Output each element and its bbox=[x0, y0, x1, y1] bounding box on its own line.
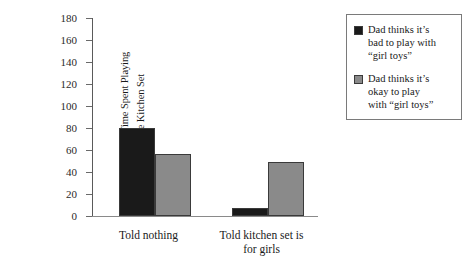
plot-area: 020406080100120140160180 Told nothingTol… bbox=[92, 18, 318, 216]
x-category-label-1-line-1: for girls bbox=[205, 242, 318, 256]
x-axis-baseline bbox=[86, 216, 318, 217]
y-tick-140: 140 bbox=[86, 62, 92, 63]
x-category-label-0-line-0: Told nothing bbox=[92, 228, 205, 242]
y-tick-label-0: 0 bbox=[72, 210, 78, 222]
y-tick-label-60: 60 bbox=[66, 144, 77, 156]
y-tick-label-20: 20 bbox=[66, 188, 77, 200]
y-tick-60: 60 bbox=[86, 150, 92, 151]
y-axis-line bbox=[92, 18, 93, 216]
legend-label-series-1-line-1: Dad thinks it’s bbox=[368, 24, 429, 35]
legend-label-series-1-line-2: bad to play with bbox=[368, 37, 436, 48]
y-tick-40: 40 bbox=[86, 172, 92, 173]
bar-cat0-series1 bbox=[155, 154, 191, 216]
chart-legend: Dad thinks it’s bad to play with “girl t… bbox=[346, 14, 462, 120]
y-tick-80: 80 bbox=[86, 128, 92, 129]
y-tick-label-160: 160 bbox=[61, 34, 78, 46]
bar-cat1-series1 bbox=[268, 162, 304, 216]
legend-swatch-gray bbox=[354, 75, 363, 84]
bar-chart-figure: Amount of Time Spent Playing with the Ki… bbox=[0, 0, 472, 274]
y-tick-0: 0 bbox=[86, 216, 92, 217]
y-tick-label-180: 180 bbox=[61, 12, 78, 24]
y-tick-label-80: 80 bbox=[66, 122, 77, 134]
x-category-label-1: Told kitchen set isfor girls bbox=[205, 228, 318, 256]
legend-label-series-1: Dad thinks it’s bad to play with “girl t… bbox=[368, 23, 436, 62]
legend-label-series-2-line-3: with “girl toys” bbox=[368, 99, 433, 110]
legend-label-series-2: Dad thinks it’s okay to play with “girl … bbox=[368, 72, 433, 111]
x-category-label-1-line-0: Told kitchen set is bbox=[205, 228, 318, 242]
bar-cat0-series0 bbox=[119, 128, 155, 216]
y-axis-label: Amount of Time Spent Playing with the Ki… bbox=[2, 8, 48, 224]
y-tick-180: 180 bbox=[86, 18, 92, 19]
legend-entry-series-2[interactable]: Dad thinks it’s okay to play with “girl … bbox=[354, 72, 455, 111]
y-tick-160: 160 bbox=[86, 40, 92, 41]
legend-label-series-2-line-2: okay to play bbox=[368, 86, 420, 97]
y-tick-120: 120 bbox=[86, 84, 92, 85]
legend-entry-series-1[interactable]: Dad thinks it’s bad to play with “girl t… bbox=[354, 23, 455, 62]
y-tick-label-140: 140 bbox=[61, 56, 78, 68]
y-tick-100: 100 bbox=[86, 106, 92, 107]
x-category-label-0: Told nothing bbox=[92, 228, 205, 242]
legend-label-series-1-line-3: “girl toys” bbox=[368, 50, 412, 61]
y-tick-label-100: 100 bbox=[61, 100, 78, 112]
bar-cat1-series0 bbox=[232, 208, 268, 216]
y-tick-20: 20 bbox=[86, 194, 92, 195]
y-tick-label-120: 120 bbox=[61, 78, 78, 90]
legend-label-series-2-line-1: Dad thinks it’s bbox=[368, 73, 429, 84]
legend-swatch-dark bbox=[354, 26, 363, 35]
y-tick-label-40: 40 bbox=[66, 166, 77, 178]
